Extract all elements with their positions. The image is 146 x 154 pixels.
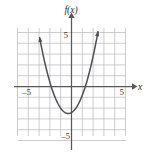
y-tick-label-five: 5 <box>64 30 69 40</box>
x-tick-label-negative-five: –5 <box>21 87 32 97</box>
y-tick-label-negative-five: –5 <box>60 131 71 141</box>
x-tick-label-five: 5 <box>120 87 125 97</box>
graph-figure: f(x) x –5 5 5 –5 <box>0 0 146 154</box>
function-label: f(x) <box>64 5 77 16</box>
x-axis-label: x <box>137 82 143 92</box>
x-axis-arrow-icon <box>132 83 138 89</box>
parabola-curve <box>40 32 98 114</box>
cartesian-plot: f(x) x –5 5 5 –5 <box>0 0 146 154</box>
